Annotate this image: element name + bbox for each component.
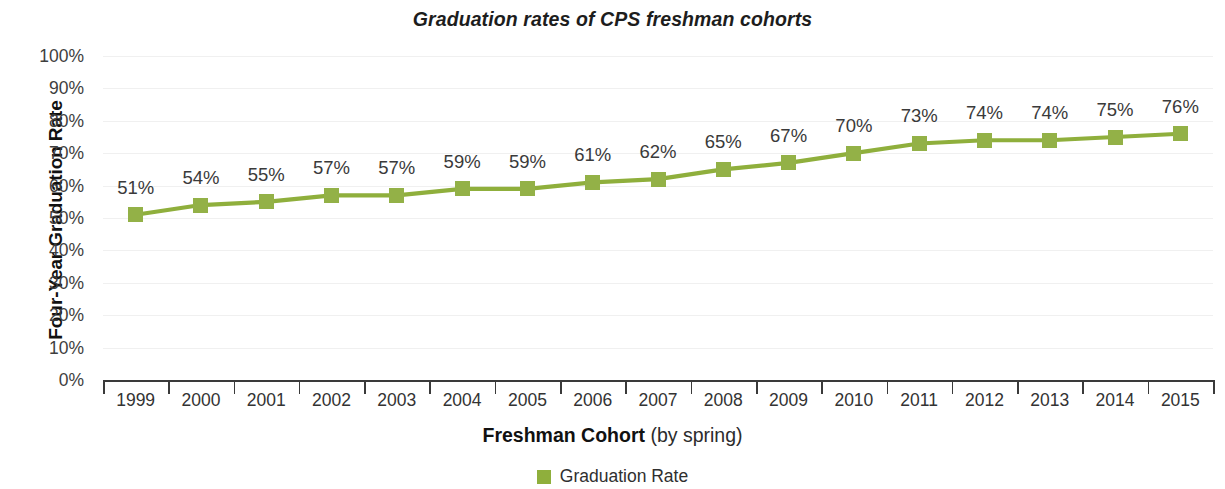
x-axis-tick-label: 2015 [1135,390,1225,411]
x-axis-title-strong: Freshman Cohort [482,424,645,446]
data-point-marker [781,155,796,170]
data-point-marker [520,181,535,196]
chart-figure: Graduation rates of CPS freshman cohorts… [0,0,1225,489]
y-axis-tick-label: 80% [4,110,84,131]
y-axis-tick-label: 40% [4,240,84,261]
x-axis-title: Freshman Cohort (by spring) [0,424,1225,447]
y-axis-tick-label: 90% [4,78,84,99]
data-point-marker [1042,133,1057,148]
gridline [103,218,1213,219]
chart-title: Graduation rates of CPS freshman cohorts [0,8,1225,31]
x-axis-title-light: (by spring) [645,424,743,446]
legend-label: Graduation Rate [560,466,688,487]
data-point-marker [585,175,600,190]
y-axis-tick-label: 50% [4,208,84,229]
y-axis-tick-label: 30% [4,272,84,293]
data-point-marker [1108,130,1123,145]
data-point-marker [912,136,927,151]
gridline [103,348,1213,349]
data-point-marker [259,194,274,209]
data-point-marker [455,181,470,196]
legend-swatch-icon [537,470,551,484]
data-point-marker [389,188,404,203]
y-axis-tick-label: 0% [4,370,84,391]
y-axis-tick-label: 20% [4,305,84,326]
gridline [103,283,1213,284]
data-point-marker [324,188,339,203]
data-point-marker [977,133,992,148]
data-point-marker [1173,126,1188,141]
gridline [103,88,1213,89]
data-point-label: 76% [1135,96,1225,118]
y-axis-tick-label: 10% [4,337,84,358]
data-point-marker [716,162,731,177]
plot-area: 0%10%20%30%40%50%60%70%80%90%100% [103,50,1213,380]
gridline [103,315,1213,316]
chart-legend: Graduation Rate [0,466,1225,487]
data-point-marker [128,207,143,222]
y-axis-tick-label: 100% [4,46,84,67]
gridline [103,56,1213,57]
x-axis-line [103,380,1213,382]
y-axis-tick-label: 70% [4,143,84,164]
gridline [103,250,1213,251]
y-axis-tick-label: 60% [4,175,84,196]
data-point-marker [651,172,666,187]
data-point-marker [193,198,208,213]
data-point-marker [846,146,861,161]
